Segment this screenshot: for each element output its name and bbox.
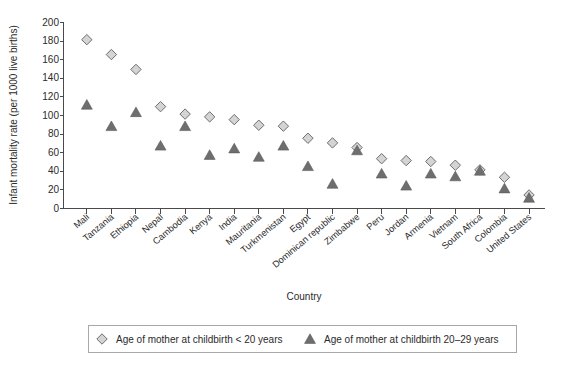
x-axis-ticks <box>87 209 529 214</box>
data-point-triangle <box>450 171 461 181</box>
data-point-triangle <box>81 100 92 110</box>
data-point-diamond <box>155 101 165 111</box>
data-point-diamond <box>229 114 239 124</box>
data-point-triangle <box>204 150 215 160</box>
data-point-triangle <box>302 161 313 171</box>
y-tick-label: 140 <box>42 72 59 83</box>
data-point-diamond <box>499 172 509 182</box>
y-axis-ticks <box>60 23 64 209</box>
data-point-triangle <box>499 183 510 193</box>
data-point-triangle <box>401 180 412 190</box>
y-axis-tick-labels: 020406080100120140160180200 <box>42 17 59 214</box>
data-point-diamond <box>376 154 386 164</box>
data-point-triangle <box>131 107 142 117</box>
x-axis-title: Country <box>286 291 321 302</box>
data-point-diamond <box>106 49 116 59</box>
x-axis-category-labels: MaliTanzaniaEthiopiaNepalCambodiaKenyaIn… <box>72 211 534 269</box>
data-point-triangle <box>278 140 289 150</box>
data-point-diamond <box>131 64 141 74</box>
data-point-triangle <box>229 143 240 153</box>
legend-label: Age of mother at childbirth 20–29 years <box>324 334 499 345</box>
data-point-triangle <box>425 168 436 178</box>
data-point-triangle <box>327 179 338 189</box>
y-tick-label: 100 <box>42 110 59 121</box>
data-point-triangle <box>180 121 191 131</box>
data-point-diamond <box>450 160 460 170</box>
x-category-label: Kenya <box>188 211 215 236</box>
data-point-diamond <box>327 138 337 148</box>
y-tick-label: 120 <box>42 91 59 102</box>
y-tick-label: 20 <box>48 184 60 195</box>
y-tick-label: 160 <box>42 54 59 65</box>
x-category-label: Ethiopia <box>108 211 141 241</box>
data-point-triangle <box>376 168 387 178</box>
series-under-20-markers <box>82 34 535 200</box>
data-point-diamond <box>82 34 92 44</box>
data-point-diamond <box>401 155 411 165</box>
y-tick-label: 0 <box>53 203 59 214</box>
y-tick-label: 80 <box>48 128 60 139</box>
y-tick-label: 200 <box>42 17 59 28</box>
y-axis-title: Infant mortality rate (per 1000 live bir… <box>8 25 19 205</box>
data-point-triangle <box>253 152 264 162</box>
x-category-label: Mali <box>72 212 91 230</box>
series-20-29-markers <box>81 100 534 203</box>
data-point-diamond <box>426 156 436 166</box>
y-tick-label: 60 <box>48 147 60 158</box>
infant-mortality-scatter-chart: Infant mortality rate (per 1000 live bir… <box>0 0 561 369</box>
data-point-diamond <box>278 121 288 131</box>
y-tick-label: 180 <box>42 35 59 46</box>
data-point-diamond <box>254 120 264 130</box>
data-point-diamond <box>180 109 190 119</box>
data-point-triangle <box>106 121 117 131</box>
y-tick-label: 40 <box>48 165 60 176</box>
data-point-diamond <box>303 133 313 143</box>
data-point-triangle <box>155 140 166 150</box>
data-point-diamond <box>204 112 214 122</box>
legend-label: Age of mother at childbirth < 20 years <box>116 334 282 345</box>
chart-container: Infant mortality rate (per 1000 live bir… <box>0 0 561 369</box>
